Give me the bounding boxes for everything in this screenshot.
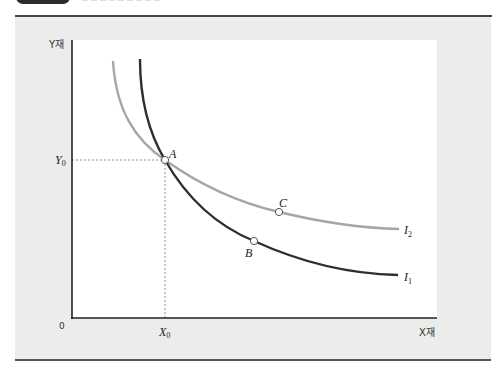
point-b-marker [250, 237, 257, 244]
point-b-label: B [245, 246, 253, 260]
y0-tick-label: Y0 [55, 153, 66, 168]
point-a-marker [161, 156, 168, 163]
point-a-label: A [168, 147, 177, 161]
y-axis-title: Y재 [48, 39, 64, 50]
point-c-label: C [279, 196, 288, 210]
indifference-curve-chart: Y재 X재 0 Y0 X0 A C B I2 I1 [0, 0, 504, 378]
x0-tick-label: X0 [158, 325, 170, 340]
x-axis-title: X재 [419, 327, 435, 338]
plot-area [72, 40, 437, 318]
origin-label: 0 [59, 321, 65, 331]
